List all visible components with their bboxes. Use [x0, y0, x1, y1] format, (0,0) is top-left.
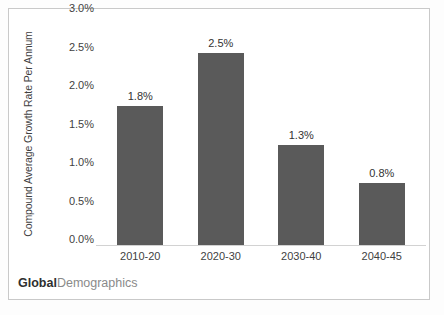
watermark-brand-light: Demographics [57, 276, 138, 290]
y-axis-title: Compound Average Growth Rate Per Annum [22, 14, 34, 254]
x-axis-tick: 2030-40 [261, 250, 342, 262]
y-axis-tick: 2.0% [69, 79, 94, 91]
bar-value-label: 1.8% [128, 90, 153, 102]
category-axis-line [96, 245, 426, 246]
watermark: GlobalDemographics [18, 276, 138, 290]
bar-slot: 1.8% [100, 14, 181, 245]
x-axis-tick: 2020-30 [181, 250, 262, 262]
bar-value-label: 1.3% [289, 129, 314, 141]
bar-slot: 1.3% [261, 14, 342, 245]
y-axis-tick: 2.5% [69, 41, 94, 53]
y-axis-tick: 3.0% [69, 2, 94, 14]
bar-value-label: 2.5% [208, 37, 233, 49]
x-axis-tick: 2040-45 [342, 250, 423, 262]
bar-slot: 2.5% [181, 14, 262, 245]
chart-container: Compound Average Growth Rate Per Annum 0… [0, 0, 444, 315]
x-axis-tick-labels: 2010-202020-302030-402040-45 [100, 250, 422, 272]
bar[interactable] [359, 183, 405, 245]
y-axis-tick: 1.5% [69, 118, 94, 130]
bar[interactable] [198, 53, 244, 246]
watermark-brand-bold: Global [18, 276, 57, 290]
bars-layer: 1.8%2.5%1.3%0.8% [100, 14, 422, 245]
y-axis-tick: 0.0% [69, 233, 94, 245]
bar-value-label: 0.8% [369, 167, 394, 179]
bar-slot: 0.8% [342, 14, 423, 245]
x-axis-tick: 2010-20 [100, 250, 181, 262]
bar[interactable] [278, 145, 324, 245]
y-axis-tick-labels: 0.0%0.5%1.0%1.5%2.0%2.5%3.0% [46, 8, 98, 240]
bar[interactable] [117, 106, 163, 245]
y-axis-tick: 1.0% [69, 156, 94, 168]
y-axis-tick: 0.5% [69, 195, 94, 207]
